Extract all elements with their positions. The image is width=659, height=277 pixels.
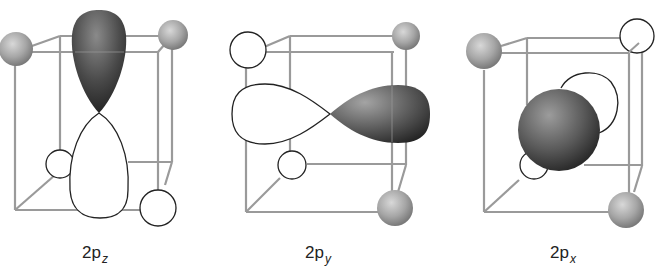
shaded-sphere-top-right: [392, 22, 420, 50]
orbital-2py-diagram: [220, 0, 440, 277]
label-2py: 2py: [305, 243, 331, 266]
panel-2px: 2px: [439, 0, 659, 277]
label-2pz: 2pz: [82, 243, 108, 266]
shaded-lobe-top: [72, 10, 126, 113]
shaded-sphere-top-right: [158, 20, 188, 50]
open-sphere-bottom-right: [140, 190, 176, 226]
label-2px: 2px: [550, 243, 576, 266]
label-main: 2p: [82, 243, 101, 262]
shaded-sphere-top-left: [466, 33, 502, 69]
label-subscript: x: [570, 252, 576, 266]
open-lobe-bottom: [70, 113, 128, 218]
open-sphere-top-right: [620, 19, 654, 53]
orbital-2pz-diagram: [0, 0, 220, 277]
shaded-lobe-front: [518, 89, 600, 171]
shaded-sphere-top-left: [0, 32, 33, 66]
open-sphere-back: [278, 151, 306, 179]
label-main: 2p: [305, 243, 324, 262]
shaded-sphere-bottom-right: [377, 190, 413, 226]
orbital-2px-diagram: [439, 0, 659, 277]
panel-2py: 2py: [220, 0, 440, 277]
label-subscript: z: [102, 252, 108, 266]
open-sphere-top-left: [230, 32, 266, 68]
shaded-lobe-right: [330, 85, 430, 143]
label-main: 2p: [550, 243, 569, 262]
panel-2pz: 2pz: [0, 0, 220, 277]
open-lobe-left: [232, 84, 330, 144]
label-subscript: y: [325, 252, 331, 266]
shaded-sphere-bottom-right: [608, 192, 644, 228]
